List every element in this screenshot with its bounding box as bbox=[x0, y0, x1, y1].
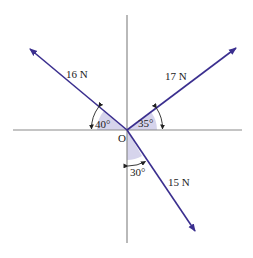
force-arrow-16n bbox=[30, 49, 127, 130]
force-label-15n: 15 N bbox=[168, 176, 190, 188]
angle-arc-35 bbox=[157, 108, 163, 129]
force-label-17n: 17 N bbox=[165, 70, 187, 82]
origin-label: O bbox=[118, 132, 126, 144]
force-label-16n: 16 N bbox=[66, 68, 88, 80]
force-diagram-canvas: 16 N 17 N 15 N 40° 35° 30° O bbox=[0, 0, 253, 258]
angle-label-30: 30° bbox=[130, 166, 145, 178]
force-diagram: 16 N 17 N 15 N 40° 35° 30° O bbox=[0, 0, 253, 258]
angle-label-40: 40° bbox=[95, 118, 110, 130]
angle-label-35: 35° bbox=[138, 117, 153, 129]
